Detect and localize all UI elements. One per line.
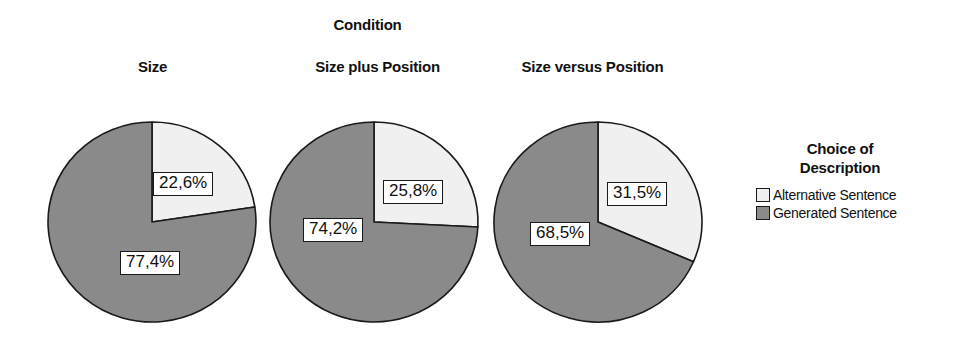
pie-chart-size-versus-position — [492, 120, 704, 324]
chart-title: Condition — [0, 16, 735, 33]
condition-label-size-plus-position: Size plus Position — [280, 58, 475, 75]
legend-items: Alternative Sentence Generated Sentence — [756, 187, 952, 221]
pie-chart-figure: Condition Size Size plus Position Size v… — [0, 0, 959, 357]
pie-chart-size — [46, 120, 258, 324]
value-label-size-generated: 77,4% — [120, 251, 180, 275]
value-label-size-versus-position-alternative: 31,5% — [607, 182, 667, 206]
value-label-size-alternative: 22,6% — [153, 172, 213, 196]
legend-label-generated: Generated Sentence — [773, 205, 897, 221]
pie-slices-size-plus-position — [270, 122, 478, 322]
legend-swatch-generated-icon — [756, 206, 770, 220]
legend-title-line-2: Description — [742, 159, 938, 178]
legend-label-alternative: Alternative Sentence — [773, 187, 896, 203]
condition-label-size-versus-position: Size versus Position — [490, 58, 695, 75]
pie-slice-alternative — [374, 122, 478, 227]
pie-chart-size-plus-position — [268, 120, 480, 324]
value-label-size-plus-position-generated: 74,2% — [303, 218, 363, 242]
legend-item-generated-sentence[interactable]: Generated Sentence — [756, 205, 952, 221]
condition-label-size: Size — [70, 58, 235, 75]
pie-slices-size-versus-position — [494, 122, 702, 322]
legend-title-line-1: Choice of — [742, 140, 938, 159]
value-label-size-plus-position-alternative: 25,8% — [383, 180, 443, 204]
pie-svg-size — [46, 120, 258, 324]
pie-svg-size-plus-position — [268, 120, 480, 324]
legend-item-alternative-sentence[interactable]: Alternative Sentence — [756, 187, 952, 203]
value-label-size-versus-position-generated: 68,5% — [530, 222, 590, 246]
pie-slices-size — [48, 122, 256, 322]
pie-svg-size-versus-position — [492, 120, 704, 324]
legend: Choice of Description Alternative Senten… — [742, 140, 952, 223]
legend-swatch-alternative-icon — [756, 188, 770, 202]
legend-title: Choice of Description — [742, 140, 938, 178]
